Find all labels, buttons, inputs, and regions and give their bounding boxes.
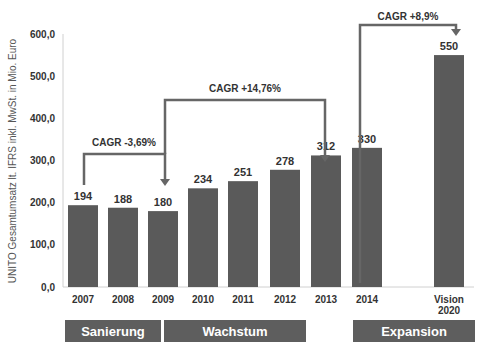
bar-chart: 0,0100,0200,0300,0400,0500,0600,0 194200… (0, 0, 484, 356)
y-tick-label: 100,0 (30, 239, 55, 250)
arrow-head-icon (451, 29, 461, 36)
cagr-label: CAGR +8,9% (378, 11, 439, 22)
y-tick-label: 200,0 (30, 197, 55, 208)
bar-value-label: 278 (276, 155, 294, 167)
bar (434, 55, 464, 287)
cagr-label: CAGR +14,76% (209, 83, 281, 94)
bar-value-label: 234 (194, 173, 213, 185)
y-tick-label: 500,0 (30, 71, 55, 82)
phase-band-sanierung: Sanierung (65, 320, 161, 342)
cagr-bracket (165, 100, 325, 156)
x-tick-label: 2011 (232, 294, 254, 305)
x-tick-label: 2009 (152, 294, 175, 305)
bar (311, 155, 341, 287)
bar-value-label: 550 (440, 40, 458, 52)
y-tick-label: 0,0 (41, 282, 55, 293)
x-tick-label: 2007 (72, 294, 95, 305)
bar (352, 148, 382, 287)
y-tick-label: 400,0 (30, 113, 55, 124)
bar-value-label: 180 (154, 196, 172, 208)
x-tick-label: 2013 (315, 294, 338, 305)
x-tick-label: 2012 (274, 294, 297, 305)
bar-value-label: 188 (114, 193, 132, 205)
bar-value-label: 194 (74, 190, 93, 202)
bar (270, 170, 300, 287)
bar (148, 211, 178, 287)
bar (108, 208, 138, 287)
phase-band-wachstum: Wachstum (164, 320, 306, 342)
y-tick-label: 600,0 (30, 29, 55, 40)
bar (188, 188, 218, 287)
x-tick-label: 2010 (192, 294, 215, 305)
bar (68, 205, 98, 287)
x-tick-label: 2014 (356, 294, 379, 305)
x-tick-label: Vision (434, 294, 464, 305)
arrow-head-icon (160, 179, 170, 186)
bars: 1942007188200818020092342010251201127820… (68, 40, 464, 316)
phase-band-expansion: Expansion (353, 320, 475, 342)
bar (228, 181, 258, 287)
x-tick-label: 2008 (112, 294, 135, 305)
y-tick-label: 300,0 (30, 155, 55, 166)
cagr-bracket (84, 154, 165, 185)
bar-value-label: 251 (234, 166, 252, 178)
x-tick-label: 2020 (438, 305, 461, 316)
cagr-label: CAGR -3,69% (92, 137, 156, 148)
